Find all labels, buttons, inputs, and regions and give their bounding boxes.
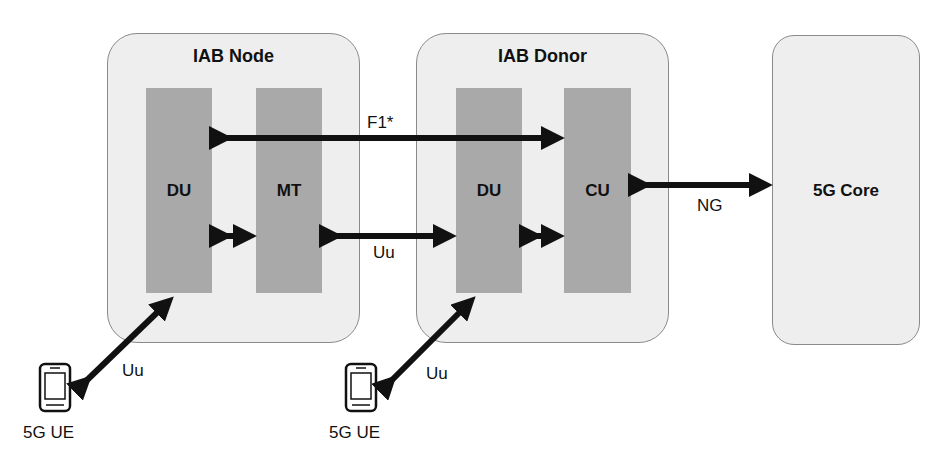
uu-ue-left-label: Uu (122, 361, 144, 381)
ue-left-label: 5G UE (23, 423, 74, 443)
f1-label: F1* (367, 113, 393, 133)
ng-label: NG (697, 196, 723, 216)
phone-icon-left (40, 364, 70, 411)
ue-right-label: 5G UE (329, 423, 380, 443)
uu-backhaul-label: Uu (373, 243, 395, 263)
phone-icon-right (346, 364, 376, 411)
arrows-layer (0, 0, 947, 465)
uu-ue-right-label: Uu (426, 364, 448, 384)
